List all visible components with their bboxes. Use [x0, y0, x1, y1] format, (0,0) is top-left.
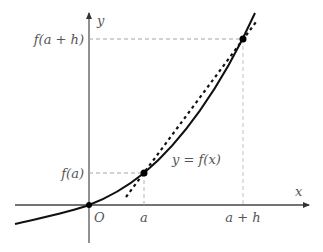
- origin-label: O: [94, 210, 105, 225]
- point-a: [141, 170, 148, 177]
- y-axis-label: y: [96, 13, 105, 28]
- y-tick-fah: f(a + h): [33, 32, 84, 47]
- x-tick-a-plus-h: a + h: [225, 210, 260, 225]
- point-a-plus-h: [240, 36, 247, 43]
- x-tick-a: a: [140, 210, 148, 225]
- curve-label: y = f(x): [171, 152, 221, 167]
- y-tick-fa: f(a): [60, 166, 84, 181]
- secant-diagram: y x O f(a + h) f(a) a a + h y = f(x): [0, 0, 323, 252]
- x-axis-label: x: [295, 184, 303, 199]
- origin-point: [86, 202, 92, 208]
